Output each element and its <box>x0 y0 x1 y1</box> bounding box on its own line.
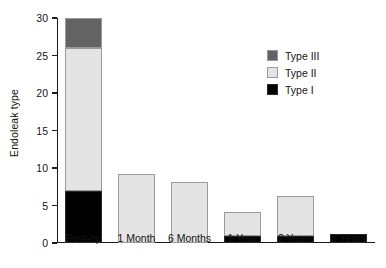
y-tick-10: 10 <box>52 167 57 168</box>
y-tick-20: 20 <box>52 92 57 93</box>
y-tick-label: 25 <box>36 50 48 62</box>
bar-group <box>65 18 102 243</box>
y-tick-15: 15 <box>52 130 57 131</box>
y-tick-label: 15 <box>36 125 48 137</box>
y-tick-label: 10 <box>36 162 48 174</box>
y-tick-5: 5 <box>52 205 57 206</box>
x-axis-label-2-years: 2 Years <box>269 232 322 244</box>
y-tick-label: 5 <box>42 200 48 212</box>
legend: Type IIIType IIType I <box>267 47 319 98</box>
legend-item: Type I <box>267 81 319 98</box>
x-axis-label-post-op: Post-op <box>57 232 110 244</box>
y-tick-label: 0 <box>42 237 48 249</box>
y-tick-30: 30 <box>52 17 57 18</box>
legend-label: Type III <box>285 50 319 62</box>
legend-swatch <box>267 67 278 78</box>
legend-label: Type II <box>285 67 317 79</box>
bar-segment <box>277 196 314 236</box>
y-tick-label: 20 <box>36 87 48 99</box>
legend-item: Type III <box>267 47 319 64</box>
legend-swatch <box>267 50 278 61</box>
bar-segment <box>65 48 102 191</box>
y-axis-title: Endoleak type <box>2 0 26 246</box>
x-axis-label-1-month: 1 Month <box>110 232 163 244</box>
bars-layer <box>57 18 375 243</box>
legend-label: Type I <box>285 84 314 96</box>
x-axis-label-6-months: 6 Months <box>163 232 216 244</box>
y-tick-25: 25 <box>52 55 57 56</box>
legend-item: Type II <box>267 64 319 81</box>
bar-segment <box>65 18 102 48</box>
y-axis-title-text: Endoleak type <box>8 89 20 157</box>
legend-swatch <box>267 84 278 95</box>
x-axis-label-1-year: 1 Year <box>216 232 269 244</box>
endoleak-type-bar-chart: Endoleak type 051015202530 Post-op1 Mont… <box>0 0 386 268</box>
plot-area: 051015202530 <box>57 18 375 243</box>
x-axis-label-3-years: 3 Years <box>322 232 375 244</box>
y-tick-label: 30 <box>36 12 48 24</box>
